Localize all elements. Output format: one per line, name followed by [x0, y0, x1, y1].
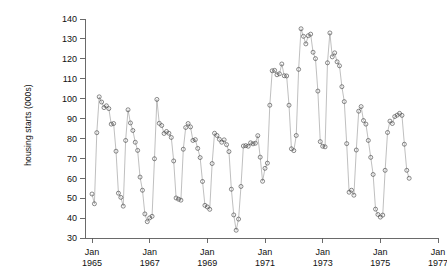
x-tick-label-year: 1975: [370, 258, 390, 268]
x-tick-label-year: 1969: [197, 258, 217, 268]
x-tick-label-month: Jan: [431, 247, 446, 257]
x-tick-label-month: Jan: [142, 247, 157, 257]
y-tick-label: 140: [62, 14, 77, 24]
y-tick-label: 90: [67, 114, 77, 124]
series-line-housing-starts: [92, 29, 409, 230]
x-tick-label-year: 1973: [313, 258, 333, 268]
x-tick-label-year: 1977: [428, 258, 447, 268]
x-tick-label-month: Jan: [373, 247, 388, 257]
y-tick-label: 120: [62, 54, 77, 64]
y-tick-label: 60: [67, 174, 77, 184]
chart-figure: housing starts (000s) 304050607080901001…: [0, 0, 447, 280]
y-tick-label: 30: [67, 233, 77, 243]
y-tick-label: 80: [67, 134, 77, 144]
y-tick-label: 100: [62, 94, 77, 104]
y-tick-label: 70: [67, 154, 77, 164]
x-tick-label-month: Jan: [200, 247, 215, 257]
x-tick-label-month: Jan: [315, 247, 330, 257]
x-tick-label-year: 1967: [140, 258, 160, 268]
y-tick-label: 40: [67, 213, 77, 223]
data-series: [90, 27, 411, 232]
x-tick-label-year: 1971: [255, 258, 275, 268]
y-tick-label: 50: [67, 193, 77, 203]
x-axis: Jan1965Jan1967Jan1969Jan1971Jan1973Jan19…: [82, 238, 447, 268]
x-tick-label-month: Jan: [85, 247, 100, 257]
housing-starts-line-chart: 30405060708090100110120130140 Jan1965Jan…: [0, 0, 447, 280]
y-tick-label: 130: [62, 34, 77, 44]
y-tick-label: 110: [63, 74, 77, 84]
y-axis: 30405060708090100110120130140: [62, 14, 85, 243]
x-tick-label-year: 1965: [82, 258, 102, 268]
x-tick-label-month: Jan: [258, 247, 273, 257]
